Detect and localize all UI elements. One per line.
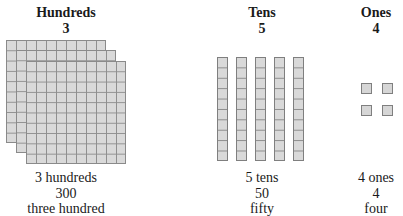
tens-column: Tens 5 5 tens 50 fifty [212, 0, 312, 216]
tens-count-caption: 5 tens [212, 170, 312, 185]
hundreds-title: Hundreds [0, 5, 132, 21]
one-unit-1 [361, 83, 372, 94]
tens-digit: 5 [212, 21, 312, 37]
ones-number-caption: 4 [346, 186, 403, 201]
tens-title: Tens [212, 5, 312, 21]
tens-number-caption: 50 [212, 186, 312, 201]
hundred-flat-3 [26, 61, 126, 164]
ten-rod-2 [236, 57, 247, 161]
hundreds-number-caption: 300 [0, 186, 132, 201]
ten-rod-5 [293, 57, 304, 161]
hundreds-digit: 3 [0, 21, 132, 37]
ones-count-caption: 4 ones [346, 170, 403, 185]
ones-title: Ones [346, 5, 403, 21]
ones-column: Ones 4 4 ones 4 four [346, 0, 403, 216]
one-unit-2 [382, 83, 393, 94]
ten-rod-4 [274, 57, 285, 161]
one-unit-3 [361, 105, 372, 116]
tens-words-caption: fifty [212, 201, 312, 216]
ones-words-caption: four [346, 201, 403, 216]
hundreds-column: Hundreds 3 3 hundreds 300 three hundred [0, 0, 132, 216]
ones-digit: 4 [346, 21, 403, 37]
ten-rod-3 [255, 57, 266, 161]
one-unit-4 [382, 105, 393, 116]
ten-rod-1 [217, 57, 228, 161]
hundreds-count-caption: 3 hundreds [0, 170, 132, 185]
hundreds-words-caption: three hundred [0, 201, 132, 216]
